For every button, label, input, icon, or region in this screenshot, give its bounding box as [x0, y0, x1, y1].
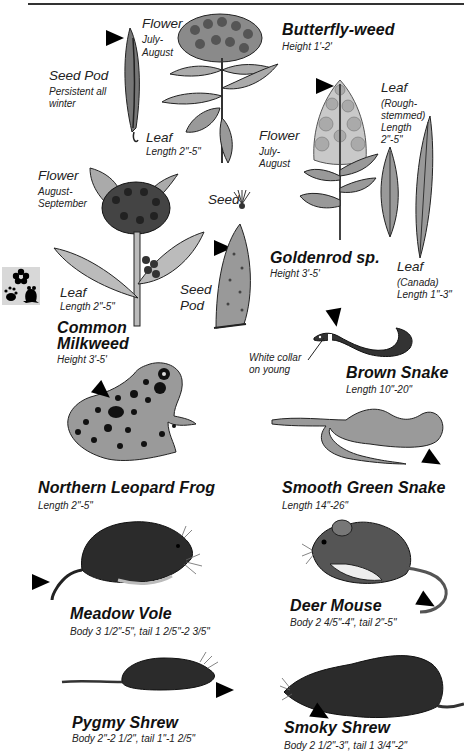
milkweed-seed-pod-label-2: Pod	[180, 298, 204, 314]
habitat-badge	[2, 267, 40, 305]
meadow-vole-illustration	[48, 520, 198, 600]
butterfly-weed-name: Butterfly-weed	[282, 22, 395, 39]
goldenrod-illustration	[300, 80, 380, 240]
goldenrod-rough-leaf-label: Leaf	[381, 80, 407, 96]
goldenrod-rough-leaf-note-3: Length	[381, 122, 412, 134]
northern-leopard-frog-name: Northern Leopard Frog	[38, 480, 215, 497]
collar-callout-line	[306, 338, 326, 362]
pointer-arrow-icon	[216, 682, 234, 698]
smoky-shrew-name: Smoky Shrew	[284, 720, 390, 737]
brown-snake-callout-1: White collar	[249, 352, 301, 364]
pointer-arrow-icon	[326, 308, 345, 329]
goldenrod-rough-leaf-note-4: 2"-5"	[381, 134, 403, 146]
goldenrod-canada-leaf-illustration	[410, 116, 436, 258]
pygmy-shrew-illustration	[60, 656, 220, 696]
goldenrod-rough-leaf-illustration	[376, 147, 402, 237]
goldenrod-canada-leaf-label: Leaf	[397, 259, 423, 275]
butterfly-weed-seed-pod-note-2: winter	[49, 98, 76, 110]
goldenrod-canada-leaf-note-1: (Canada)	[397, 277, 439, 289]
meadow-vole-name: Meadow Vole	[70, 606, 172, 623]
goldenrod-flower-period-1: July-	[259, 146, 280, 158]
goldenrod-height: Height 3'-5'	[270, 268, 320, 279]
deer-mouse-size: Body 2 4/5"-4", tail 2"-5"	[290, 617, 396, 628]
milkweed-seed-illustration	[232, 190, 252, 210]
milkweed-name-line2: Milkweed	[57, 336, 129, 353]
smoky-shrew-size: Body 2 1/2"-3", tail 1 3/4"-2"	[284, 740, 407, 751]
milkweed-seed-pod-illustration	[212, 224, 256, 330]
goldenrod-rough-leaf-note-1: (Rough-	[381, 98, 417, 110]
butterfly-weed-seed-pod-note-1: Persistent all	[49, 86, 106, 98]
brown-snake-name: Brown Snake	[346, 365, 448, 382]
brown-snake-callout-2: on young	[249, 364, 290, 376]
butterfly-weed-height: Height 1'-2'	[282, 41, 332, 52]
northern-leopard-frog-illustration	[64, 360, 198, 464]
brown-snake-length: Length 10"-20"	[346, 384, 412, 395]
header-rule	[28, 3, 464, 5]
goldenrod-name: Goldenrod sp.	[270, 250, 380, 267]
goldenrod-flower-period-2: August	[259, 158, 290, 170]
pointer-arrow-icon	[32, 574, 50, 590]
milkweed-leaf-label: Leaf	[60, 285, 86, 301]
butterfly-weed-seed-pod-label: Seed Pod	[49, 68, 108, 84]
milkweed-seed-pod-label-1: Seed	[180, 282, 212, 298]
smooth-green-snake-illustration	[266, 406, 446, 468]
smooth-green-snake-length: Length 14"-26"	[282, 500, 348, 511]
northern-leopard-frog-length: Length 2"-5"	[38, 500, 93, 511]
goldenrod-rough-leaf-note-2: stemmed)	[381, 110, 425, 122]
goldenrod-canada-leaf-note-2: Length 1"-3"	[397, 289, 452, 301]
pygmy-shrew-size: Body 2"-2 1/2", tail 1"-1 2/5"	[72, 733, 195, 744]
flower-paw-frog-icon	[2, 267, 40, 305]
goldenrod-flower-label: Flower	[259, 128, 300, 144]
smooth-green-snake-name: Smooth Green Snake	[282, 480, 446, 497]
meadow-vole-size: Body 3 1/2"-5", tail 1 2/5"-2 3/5"	[70, 626, 210, 637]
pygmy-shrew-name: Pygmy Shrew	[72, 715, 178, 732]
deer-mouse-name: Deer Mouse	[290, 598, 382, 615]
milkweed-leaf-length: Length 2"-5"	[60, 301, 115, 313]
